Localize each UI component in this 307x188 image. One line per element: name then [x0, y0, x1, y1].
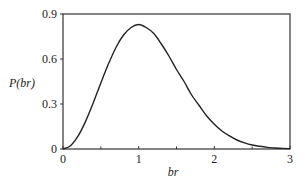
x-tick-label: 3 [287, 152, 293, 166]
chart: 012300.30.60.9 br P(br) [0, 0, 307, 188]
x-tick-label: 0 [60, 152, 66, 166]
axis-ticks [60, 14, 290, 149]
plot-frame [63, 14, 290, 149]
plot-border [63, 14, 290, 149]
y-tick-label: 0.9 [42, 7, 57, 21]
x-tick-label: 1 [136, 152, 142, 166]
tick-labels: 012300.30.60.9 [42, 7, 293, 166]
y-tick-label: 0.6 [42, 52, 57, 66]
x-tick-label: 2 [211, 152, 217, 166]
y-tick-label: 0 [51, 142, 57, 156]
data-curve [63, 25, 290, 150]
y-axis-label: P(br) [8, 76, 35, 90]
x-axis-label: br [168, 165, 179, 179]
y-tick-label: 0.3 [42, 97, 57, 111]
